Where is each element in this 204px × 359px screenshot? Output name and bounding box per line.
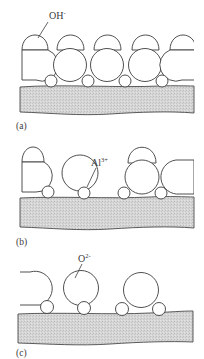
panel-label-a: (a) — [16, 121, 27, 132]
oxygen-ion-c-right — [124, 273, 159, 308]
panel-label-c: (c) — [16, 348, 27, 359]
oxygen-ion-b-right — [125, 160, 159, 194]
alumina-surface-diagram: OH- (a) Al3+ (b) — [0, 0, 204, 359]
substrate-c — [18, 311, 193, 345]
panel-b: Al3+ (b) — [16, 147, 194, 248]
al-label: Al3+ — [91, 156, 108, 168]
panel-a: OH- (a) — [16, 9, 196, 132]
oxygen-ion-c-mid — [64, 271, 99, 306]
panel-label-b: (b) — [16, 237, 27, 248]
oxygen-ion-c-left — [18, 271, 52, 305]
oh-label: OH- — [49, 9, 66, 21]
hydroxyl-cap-b-left — [22, 147, 44, 162]
panel-c: O2- (c) — [16, 252, 193, 359]
oh-leader-line — [38, 22, 48, 38]
substrate-a — [20, 86, 194, 115]
o-label: O2- — [78, 252, 91, 264]
hydroxyl-caps — [22, 35, 196, 50]
substrate-b — [20, 197, 194, 230]
